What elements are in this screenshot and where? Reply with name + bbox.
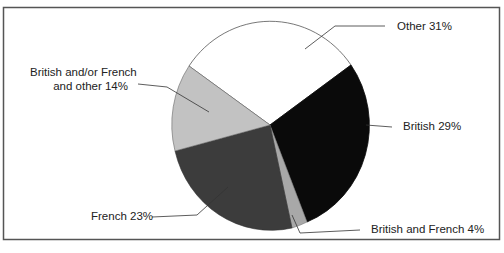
label-british: British 29%: [403, 120, 461, 133]
leader-british: [366, 125, 392, 127]
label-british-and-french: British and French 4%: [371, 223, 484, 236]
label-french: French 23%: [91, 210, 153, 223]
label-other: Other 31%: [397, 20, 452, 33]
label-mixed-line1: British and/or French: [30, 66, 128, 79]
label-mixed-line2: and other 14%: [30, 80, 128, 93]
